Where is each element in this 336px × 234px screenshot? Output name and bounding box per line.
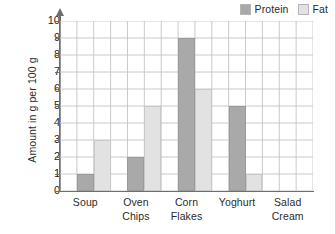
x-label-line: Salad — [254, 196, 322, 210]
x-label-line: Flakes — [153, 210, 221, 224]
legend-swatch-protein-icon — [240, 4, 251, 15]
y-tick-label-9: 9 — [12, 32, 60, 43]
y-tick-label-6: 6 — [12, 83, 60, 94]
y-tick-label-10: 10 — [12, 15, 60, 26]
plot-area — [60, 21, 313, 191]
bar-yoghurt-fat — [246, 174, 263, 191]
y-tick-label-5: 5 — [12, 100, 60, 111]
y-tick-label-0: 0 — [12, 185, 60, 196]
bar-corn-flakes-fat — [195, 89, 212, 191]
x-axis-labels: SoupOvenChipsCornFlakesYoghurtSaladCream — [60, 196, 313, 234]
y-tick-label-4: 4 — [12, 117, 60, 128]
bar-soup-fat — [94, 140, 111, 191]
y-tick-label-3: 3 — [12, 134, 60, 145]
y-tick-label-7: 7 — [12, 66, 60, 77]
y-tick-label-1: 1 — [12, 168, 60, 179]
bar-oven-chips-protein — [127, 157, 144, 191]
x-label-salad-cream: SaladCream — [254, 196, 322, 223]
legend-label-fat: Fat — [313, 4, 328, 15]
legend-swatch-fat-icon — [298, 4, 309, 15]
bar-corn-flakes-protein — [178, 38, 195, 191]
y-tick-label-2: 2 — [12, 151, 60, 162]
chart-legend: Protein Fat — [240, 3, 328, 16]
bar-oven-chips-fat — [144, 106, 161, 191]
bar-soup-protein — [77, 174, 94, 191]
x-label-line: Cream — [254, 210, 322, 224]
bar-chart: Protein Fat Amount in g per 100 g 109876… — [0, 0, 336, 234]
bar-yoghurt-protein — [229, 106, 246, 191]
y-tick-label-8: 8 — [12, 49, 60, 60]
legend-entry-fat: Fat — [298, 4, 328, 15]
legend-label-protein: Protein — [255, 4, 289, 15]
legend-entry-protein: Protein — [240, 4, 289, 15]
